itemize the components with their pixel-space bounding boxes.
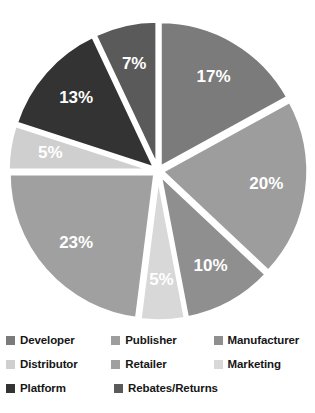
legend-swatch-icon [6,360,15,369]
pie-slice-label: 13% [59,88,93,107]
legend-item[interactable]: Manufacturer [214,334,311,346]
legend-item-label: Distributor [20,358,78,370]
pie-slice-label: 5% [38,143,63,162]
legend-item[interactable]: Distributor [6,358,111,370]
legend-row: PlatformRebates/Returns [6,376,311,400]
legend-item-label: Marketing [228,358,281,370]
chart-legend: DeveloperPublisherManufacturerDistributo… [0,326,315,413]
pie-chart-plot-area: 17%20%10%5%23%5%13%7% [0,0,315,322]
pie-slice-label: 7% [122,54,147,73]
legend-item[interactable]: Marketing [214,358,311,370]
legend-row: DeveloperPublisherManufacturer [6,328,311,352]
pie-slice-label: 17% [197,67,231,86]
legend-swatch-icon [114,384,123,393]
pie-slice-label: 20% [249,174,283,193]
legend-item-label: Manufacturer [228,334,300,346]
legend-item-label: Publisher [125,334,177,346]
legend-item[interactable]: Retailer [111,358,213,370]
legend-item-label: Rebates/Returns [128,382,218,394]
legend-row: DistributorRetailerMarketing [6,352,311,376]
legend-swatch-icon [6,384,15,393]
legend-item-label: Developer [20,334,75,346]
legend-item-label: Retailer [125,358,166,370]
pie-chart-figure: 17%20%10%5%23%5%13%7% DeveloperPublisher… [0,0,315,413]
legend-item[interactable]: Rebates/Returns [114,382,219,394]
legend-swatch-icon [214,360,223,369]
legend-item[interactable]: Platform [6,382,114,394]
legend-item-label: Platform [20,382,66,394]
pie-slice-label: 10% [194,256,228,275]
legend-item[interactable]: Publisher [111,334,213,346]
pie-chart-svg: 17%20%10%5%23%5%13%7% [0,0,315,322]
legend-swatch-icon [6,336,15,345]
pie-slice-label: 5% [149,270,174,289]
legend-swatch-icon [111,336,120,345]
legend-swatch-icon [214,336,223,345]
pie-slice-label: 23% [59,233,93,252]
legend-item[interactable]: Developer [6,334,111,346]
legend-swatch-icon [111,360,120,369]
